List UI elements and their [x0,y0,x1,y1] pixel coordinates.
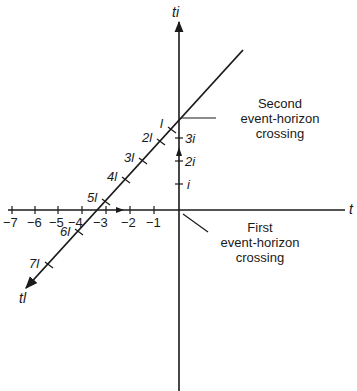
annotation-line: First [200,220,320,235]
h-tick-label: −4 [68,216,83,229]
vertical-flow-arrow-icon [176,147,182,156]
event-horizon-diagram: ti t tl −7 −6 −5 −4 −3 −2 −1 i 2i 3i l 2… [0,0,357,391]
diagonal-axis-label: tl [19,292,26,305]
h-tick-label: −6 [27,216,42,229]
h-tick-label: −1 [146,216,161,229]
first-crossing-annotation: First event-horizon crossing [200,220,320,265]
h-tick-label: −3 [93,216,108,229]
diagram-lines [0,0,357,391]
h-tick-label: −2 [121,216,136,229]
vertical-axis-label: ti [172,6,179,19]
d-tick-label: 3l [124,151,134,164]
annotation-line: Second [220,96,340,111]
d-tick-label: 5l [87,191,97,204]
annotation-line: crossing [200,250,320,265]
d-tick-label: 2l [142,131,152,144]
h-tick-label: −7 [3,216,18,229]
v-tick-label: 2i [185,155,195,168]
v-tick-label: 3i [185,132,195,145]
annotation-line: event-horizon [200,235,320,250]
second-crossing-annotation: Second event-horizon crossing [220,96,340,141]
d-tick-label: 4l [107,170,117,183]
d-tick-label: 7l [29,257,39,270]
d-tick-label: 6l [60,225,70,238]
d-tick-label: l [160,117,163,130]
annotation-line: crossing [220,126,340,141]
v-tick-label: i [187,178,190,191]
annotation-line: event-horizon [220,111,340,126]
horizontal-flow-arrow-icon [116,207,124,213]
horizontal-axis-label: t [349,203,353,216]
